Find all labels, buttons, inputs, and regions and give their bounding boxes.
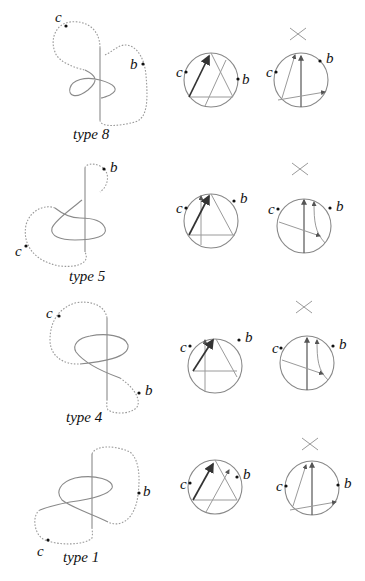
type-label: type 5 [69, 268, 105, 285]
point-label-b: b [326, 50, 334, 67]
crossing-change-icon [302, 438, 318, 450]
type-label: type 1 [63, 549, 99, 566]
point-label-c: c [272, 340, 279, 357]
point-label-b: b [110, 159, 118, 176]
point-label-c: c [276, 478, 283, 495]
figure-canvas [0, 0, 365, 581]
point-label-c: c [37, 543, 44, 560]
chord-diagram-type-4-b [279, 336, 334, 390]
point-label-b: b [336, 198, 344, 215]
point-label-c: c [266, 64, 273, 81]
point-label-c: c [176, 64, 183, 81]
point-label-b: b [130, 56, 138, 73]
point-label-c: c [176, 200, 183, 217]
point-label-b: b [242, 71, 250, 88]
point-label-b: b [344, 475, 352, 492]
point-label-b: b [240, 190, 248, 207]
point-label-c: c [55, 9, 62, 26]
point-label-b: b [145, 382, 153, 399]
chord-diagram-type-1-b [284, 461, 339, 515]
type-label: type 8 [73, 126, 109, 143]
type-label: type 4 [66, 409, 102, 426]
point-label-c: c [15, 243, 22, 260]
chord-diagram-type-1-a [188, 460, 242, 514]
knot-diagram-type-5 [24, 164, 107, 266]
knot-diagram-type-8 [53, 22, 147, 126]
point-label-b: b [245, 329, 253, 346]
chord-diagram-type-8-a [184, 53, 240, 107]
point-label-c: c [268, 201, 275, 218]
point-label-c: c [180, 476, 187, 493]
crossing-change-icon [296, 301, 312, 313]
knot-diagram-type-1 [35, 447, 141, 544]
chord-diagram-type-5-a [184, 194, 238, 248]
crossing-change-icon [290, 28, 306, 40]
knot-diagram-type-4 [50, 302, 141, 413]
crossing-change-icon [292, 163, 308, 175]
chord-diagram-type-5-b [276, 199, 331, 253]
chord-diagram-type-4-a [188, 338, 242, 393]
point-label-b: b [339, 336, 347, 353]
point-label-c: c [46, 305, 53, 322]
chord-diagram-type-8-b [274, 53, 328, 107]
point-label-c: c [180, 339, 187, 356]
point-label-b: b [243, 466, 251, 483]
point-label-b: b [143, 483, 151, 500]
